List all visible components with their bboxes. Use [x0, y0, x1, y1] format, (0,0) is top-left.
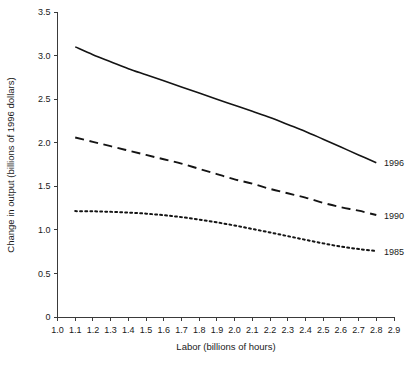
y-tick-label: 0.5 — [38, 269, 51, 279]
x-tick-label: 2.2 — [264, 325, 277, 335]
x-tick-label: 2.4 — [299, 325, 312, 335]
series-line-1996 — [75, 47, 376, 163]
y-tick-label: 1.0 — [38, 225, 51, 235]
x-tick-label: 2.9 — [388, 325, 401, 335]
x-tick-label: 2.5 — [317, 325, 330, 335]
x-tick-label: 1.4 — [122, 325, 135, 335]
x-axis-title: Labor (billions of hours) — [176, 341, 275, 352]
x-tick-label: 2.1 — [246, 325, 259, 335]
x-tick-label: 1.5 — [140, 325, 153, 335]
x-tick-label: 1.7 — [175, 325, 188, 335]
y-tick-label: 3.5 — [38, 7, 51, 17]
chart-container: 00.51.01.52.02.53.03.5 1.01.11.21.31.41.… — [0, 0, 415, 366]
plot-area: 00.51.01.52.02.53.03.5 1.01.11.21.31.41.… — [38, 7, 404, 335]
x-axis-tick-labels: 1.01.11.21.31.41.51.61.71.81.92.02.12.22… — [51, 325, 400, 335]
x-tick-label: 1.6 — [158, 325, 171, 335]
y-tick-label: 1.5 — [38, 181, 51, 191]
series-line-1990 — [75, 137, 376, 215]
x-tick-label: 2.3 — [281, 325, 294, 335]
data-series-group — [75, 47, 376, 251]
x-tick-label: 2.8 — [370, 325, 383, 335]
series-line-1985 — [75, 211, 376, 251]
x-tick-label: 2.0 — [228, 325, 241, 335]
y-axis-tick-labels: 00.51.01.52.02.53.03.5 — [38, 7, 51, 322]
line-chart: 00.51.01.52.02.53.03.5 1.01.11.21.31.41.… — [0, 0, 415, 366]
x-tick-label: 2.6 — [335, 325, 348, 335]
series-label-1990: 1990 — [384, 211, 404, 221]
x-tick-label: 1.2 — [87, 325, 100, 335]
x-tick-label: 1.8 — [193, 325, 206, 335]
x-tick-label: 2.7 — [352, 325, 365, 335]
y-tick-label: 2.5 — [38, 94, 51, 104]
x-tick-label: 1.0 — [51, 325, 64, 335]
x-tick-label: 1.3 — [104, 325, 117, 335]
x-tick-label: 1.9 — [211, 325, 224, 335]
y-tick-label: 2.0 — [38, 138, 51, 148]
series-label-1996: 1996 — [384, 158, 404, 168]
y-axis-ticks — [54, 12, 58, 317]
y-tick-label: 0 — [45, 312, 50, 322]
series-label-group: 199619901985 — [384, 158, 404, 256]
y-tick-label: 3.0 — [38, 51, 51, 61]
y-axis-title: Change in output (billions of 1996 dolla… — [5, 77, 16, 252]
series-label-1985: 1985 — [384, 247, 404, 257]
x-tick-label: 1.1 — [69, 325, 82, 335]
